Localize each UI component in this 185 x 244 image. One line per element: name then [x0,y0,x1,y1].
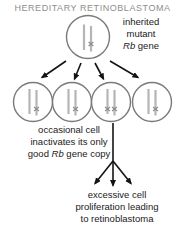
label-line: inherited [110,16,172,28]
label-line: inactivates its only [16,136,122,148]
label-line: to retinoblastoma [57,213,177,225]
daughter-cell-1 [14,83,53,122]
label-line: proliferation leading [57,201,177,213]
label-line: mutant [110,28,172,40]
cell-membrane [67,16,110,59]
rb-gene-symbol: Rb [52,148,64,159]
daughter-cell-3-double-mutant [92,83,131,122]
daughter-cell-4 [133,83,172,122]
inherited-mutant-label: inherited mutant Rb gene [110,16,172,52]
label-line: excessive cell [57,189,177,201]
excessive-proliferation-label: excessive cell proliferation leading to … [57,189,177,225]
cell-membrane [53,83,92,122]
arrow-icon [75,63,82,79]
arrow-icon [110,61,138,78]
cell-membrane [14,83,53,122]
arrow-icon [113,161,131,184]
occasional-cell-label: occasional cell inactivates its only goo… [16,124,122,160]
label-line: good Rb gene copy [16,148,122,160]
label-line: occasional cell [16,124,122,136]
arrow-icon [42,61,66,78]
division-arrows [42,61,138,79]
arrow-icon [95,63,104,79]
label-line: Rb gene [110,40,172,52]
cell-membrane [133,83,172,122]
diagram-canvas: HEREDITARY RETINOBLASTOMA [0,0,185,244]
rb-gene-symbol: Rb [123,40,135,51]
parent-cell [67,16,110,59]
daughter-cell-2 [53,83,92,122]
arrow-icon [95,161,113,184]
cell-membrane [92,83,131,122]
